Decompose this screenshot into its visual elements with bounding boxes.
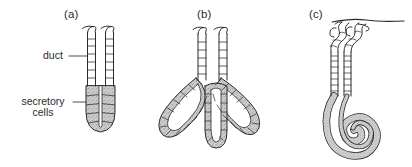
panel-label-c: (c) (309, 8, 323, 20)
panel-label-a: (a) (64, 8, 78, 20)
panel-a-gland (83, 26, 117, 132)
annotation-secretory-cells-line2: cells (14, 107, 72, 118)
panel-b-gland (159, 27, 260, 148)
annotation-duct: duct (43, 49, 63, 61)
annotation-secretory-cells: secretory cells (14, 96, 72, 118)
panel-label-b: (b) (197, 8, 211, 20)
panel-c-gland (326, 19, 404, 156)
gland-diagram-svg (0, 0, 412, 167)
gland-types-figure: (a) (b) (c) duct secretory cells (0, 0, 412, 167)
